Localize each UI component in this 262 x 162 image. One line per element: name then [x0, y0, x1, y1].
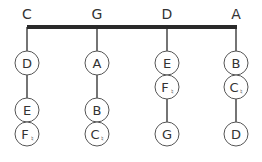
- note-label: C: [229, 80, 238, 95]
- note-label: F: [21, 127, 28, 142]
- note-node: C♮: [224, 75, 248, 99]
- note-tree-diagram: CDEF♮GABC♮DEF♮GABC♮D: [0, 0, 262, 162]
- note-label: B: [232, 56, 241, 71]
- note-node: D: [15, 51, 39, 75]
- note-node: E: [15, 98, 39, 122]
- root-label: G: [92, 6, 103, 22]
- note-label: D: [231, 127, 241, 142]
- note-label: A: [93, 56, 102, 71]
- note-label: B: [93, 103, 102, 118]
- note-node: B: [224, 51, 248, 75]
- note-label: F: [161, 80, 168, 95]
- root-label: D: [162, 6, 173, 22]
- note-label: D: [22, 56, 32, 71]
- note-node: E: [155, 51, 179, 75]
- note-label: E: [23, 103, 31, 118]
- natural-sign-icon: ♮: [240, 88, 243, 96]
- note-node: C♮: [85, 122, 109, 146]
- root-label: C: [22, 6, 32, 22]
- note-label: G: [162, 127, 172, 142]
- natural-sign-icon: ♮: [101, 135, 104, 143]
- note-node: F♮: [155, 75, 179, 99]
- root-label: A: [231, 6, 241, 22]
- natural-sign-icon: ♮: [31, 135, 34, 143]
- note-label: C: [90, 127, 99, 142]
- note-label: E: [163, 56, 171, 71]
- note-node: B: [85, 98, 109, 122]
- note-node: A: [85, 51, 109, 75]
- note-node: D: [224, 122, 248, 146]
- note-node: F♮: [15, 122, 39, 146]
- note-node: G: [155, 122, 179, 146]
- natural-sign-icon: ♮: [171, 88, 174, 96]
